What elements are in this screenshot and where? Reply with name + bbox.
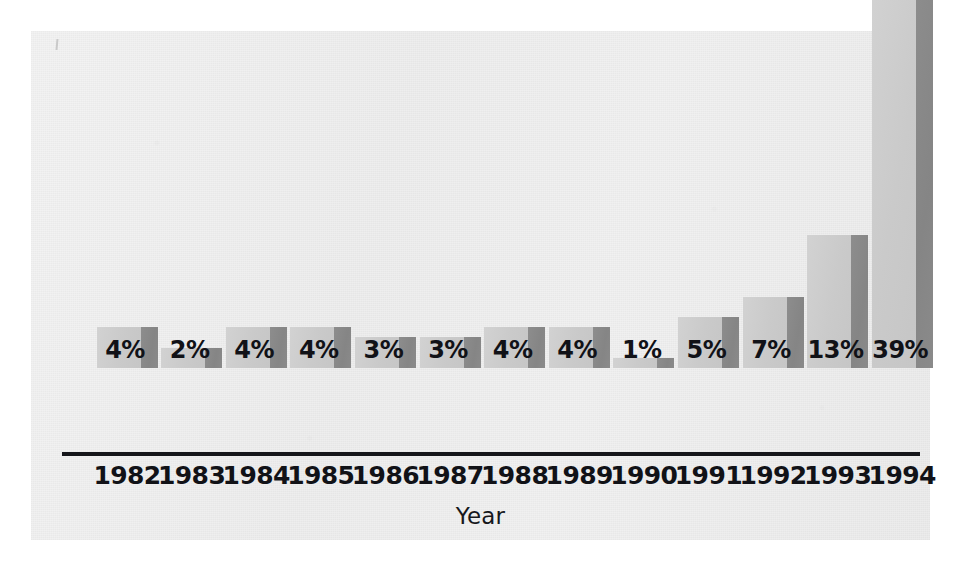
figure: 4%2%4%4%3%3%4%4%1%5%7%13%39% 19821983198…: [0, 0, 960, 564]
bar-value-label: 39%: [870, 336, 931, 364]
tick-label-1983: 1983: [157, 461, 227, 490]
bar-value-label: 3%: [418, 336, 479, 364]
bar-value-label: 7%: [741, 336, 802, 364]
bar-value-label: 5%: [676, 336, 737, 364]
tick-label-1994: 1994: [867, 461, 937, 490]
tick-label-1988: 1988: [480, 461, 550, 490]
bar-front-face: [872, 0, 916, 368]
bar-value-label: 2%: [159, 336, 220, 364]
bar-value-label: 4%: [288, 336, 349, 364]
x-axis-baseline: [62, 452, 920, 456]
bar-side-face: [916, 0, 933, 368]
chart-panel: 4%2%4%4%3%3%4%4%1%5%7%13%39% 19821983198…: [31, 31, 930, 540]
bar-value-label: 4%: [482, 336, 543, 364]
tick-label-1992: 1992: [738, 461, 808, 490]
tick-label-1982: 1982: [92, 461, 162, 490]
bar-rect: [872, 0, 933, 368]
plot-area: 4%2%4%4%3%3%4%4%1%5%7%13%39% 19821983198…: [31, 31, 930, 540]
tick-label-1989: 1989: [544, 461, 614, 490]
tick-label-1990: 1990: [609, 461, 679, 490]
x-axis-title: Year: [31, 503, 930, 529]
tick-label-1986: 1986: [350, 461, 420, 490]
bar-series: 4%2%4%4%3%3%4%4%1%5%7%13%39%: [31, 31, 930, 456]
bar-value-label: 4%: [547, 336, 608, 364]
tick-label-1993: 1993: [803, 461, 873, 490]
bar-value-label: 13%: [805, 336, 866, 364]
tick-label-1987: 1987: [415, 461, 485, 490]
bar-value-label: 1%: [611, 336, 672, 364]
tick-label-1991: 1991: [673, 461, 743, 490]
bar-value-label: 4%: [95, 336, 156, 364]
tick-label-1985: 1985: [286, 461, 356, 490]
bar-value-label: 3%: [353, 336, 414, 364]
bar-value-label: 4%: [224, 336, 285, 364]
tick-label-1984: 1984: [221, 461, 291, 490]
